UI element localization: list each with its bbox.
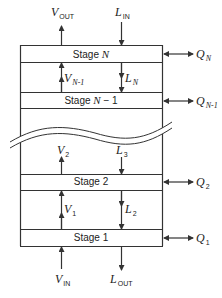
stage-2-label: Stage 2 <box>20 177 162 187</box>
label-q-1: Q1 <box>196 232 210 246</box>
stage-var: N <box>102 48 109 60</box>
stage-suffix: − 1 <box>101 95 118 106</box>
label-l-3: L3 <box>116 144 128 158</box>
stage-text: Stage 2 <box>74 176 108 187</box>
label-v-1: V1 <box>64 203 76 217</box>
break-symbol <box>10 122 172 148</box>
column-diagram <box>0 0 222 298</box>
stage-text: Stage <box>73 49 102 60</box>
label-v-2: V2 <box>57 144 69 158</box>
label-v-in: VIN <box>55 273 70 287</box>
stage-var: N <box>93 94 100 106</box>
stage-1-label: Stage 1 <box>20 233 162 243</box>
stage-n-label: Stage N <box>20 49 162 60</box>
label-l-2: L2 <box>125 203 137 217</box>
label-v-out: VOUT <box>51 6 74 20</box>
label-v-n-1: VN-1 <box>64 72 84 86</box>
stage-text: Stage <box>64 95 93 106</box>
label-l-out: LOUT <box>110 273 132 287</box>
stage-text: Stage 1 <box>74 232 108 243</box>
label-q-n-1: QN-1 <box>196 95 218 109</box>
label-l-in: LIN <box>115 6 130 20</box>
label-q-2: Q2 <box>196 176 210 190</box>
label-l-n: LN <box>125 72 138 86</box>
stage-n-minus-1-label: Stage N − 1 <box>20 95 162 106</box>
label-q-n: QN <box>196 48 211 62</box>
